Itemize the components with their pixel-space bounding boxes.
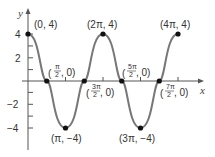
label-7pi-2-0: ( 7π 2 , 0) — [160, 83, 188, 99]
y-tick-neg2: −2 — [7, 99, 19, 110]
label-3pi-neg4: (3π, −4) — [119, 133, 155, 144]
point-zero-7pi-2 — [157, 78, 162, 83]
svg-text:π: π — [55, 63, 60, 70]
svg-text:, 0): , 0) — [174, 87, 188, 98]
y-axis-arrow-icon — [26, 8, 31, 14]
svg-text:, 0): , 0) — [136, 67, 150, 78]
point-min-pi — [63, 125, 68, 130]
y-tick-neg4: −4 — [7, 123, 19, 134]
point-max-4pi — [175, 31, 180, 36]
svg-text:2: 2 — [55, 71, 59, 78]
svg-text:2: 2 — [167, 91, 171, 98]
x-axis-arrow-icon — [198, 79, 204, 84]
cosine-chart: y x 4 2 −2 −4 (0, 4) (2π, 4) (4π, 4) (π,… — [0, 0, 215, 157]
label-pi-2-0: ( π 2 , 0) — [48, 63, 75, 79]
svg-text:2: 2 — [93, 91, 97, 98]
point-zero-5pi-2 — [119, 78, 124, 83]
svg-text:(: ( — [122, 68, 126, 79]
point-max-0 — [25, 31, 30, 36]
label-pi-neg4: (π, −4) — [51, 133, 82, 144]
point-max-2pi — [100, 31, 105, 36]
svg-text:2: 2 — [129, 71, 133, 78]
y-axis-label: y — [17, 7, 23, 19]
y-tick-2: 2 — [15, 53, 21, 64]
svg-text:(: ( — [48, 68, 52, 79]
svg-text:, 0): , 0) — [61, 67, 75, 78]
label-5pi-2-0: ( 5π 2 , 0) — [122, 63, 150, 79]
label-2pi-4: (2π, 4) — [87, 19, 117, 30]
svg-text:(: ( — [86, 88, 90, 99]
svg-text:(: ( — [160, 88, 164, 99]
label-0-4: (0, 4) — [34, 19, 57, 30]
y-tick-4: 4 — [15, 29, 21, 40]
point-zero-pi-2 — [44, 78, 49, 83]
label-4pi-4: (4π, 4) — [160, 19, 190, 30]
point-zero-3pi-2 — [82, 78, 87, 83]
svg-text:, 0): , 0) — [100, 87, 114, 98]
x-axis-label: x — [199, 84, 205, 96]
label-3pi-2-0: ( 3π 2 , 0) — [86, 83, 114, 99]
point-min-3pi — [138, 125, 143, 130]
